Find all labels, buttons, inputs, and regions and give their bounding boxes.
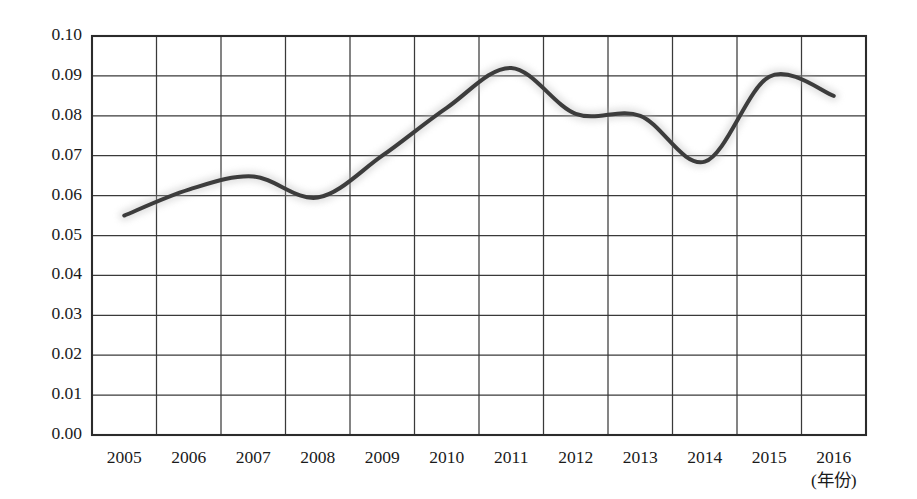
y-axis-tick-label: 0.07	[51, 144, 82, 164]
x-axis-tick-label: 2010	[429, 447, 464, 467]
y-axis-tick-label: 0.04	[51, 263, 82, 283]
x-axis-tick-label: 2009	[365, 447, 400, 467]
x-axis-tick-label: 2012	[558, 447, 593, 467]
y-axis-tick-label: 0.01	[51, 383, 82, 403]
y-axis-tick-label: 0.10	[51, 24, 82, 44]
y-axis-tick-label: 0.03	[51, 303, 82, 323]
x-axis-tick-label: 2013	[623, 447, 658, 467]
y-axis-tick-label: 0.00	[51, 423, 82, 443]
x-axis-tick-label: 2005	[107, 447, 142, 467]
y-axis-tick-label: 0.02	[51, 343, 82, 363]
chart-container: 0.000.010.020.030.040.050.060.070.080.09…	[0, 0, 917, 499]
y-axis-tick-label: 0.09	[51, 64, 82, 84]
x-axis-tick-label: 2006	[171, 447, 206, 467]
y-axis-tick-label: 0.06	[51, 184, 82, 204]
line-chart: 0.000.010.020.030.040.050.060.070.080.09…	[0, 0, 917, 499]
x-axis-tick-label: 2014	[687, 447, 722, 467]
x-axis-tick-label: 2016	[816, 447, 851, 467]
x-axis-tick-label: 2015	[752, 447, 787, 467]
x-axis-tick-label: 2007	[236, 447, 271, 467]
x-axis-tick-label: 2008	[300, 447, 335, 467]
y-axis-tick-label: 0.05	[51, 224, 82, 244]
x-axis-tick-label: 2011	[494, 447, 528, 467]
y-axis-tick-label: 0.08	[51, 104, 82, 124]
x-axis-unit-label: (年份)	[811, 470, 857, 490]
